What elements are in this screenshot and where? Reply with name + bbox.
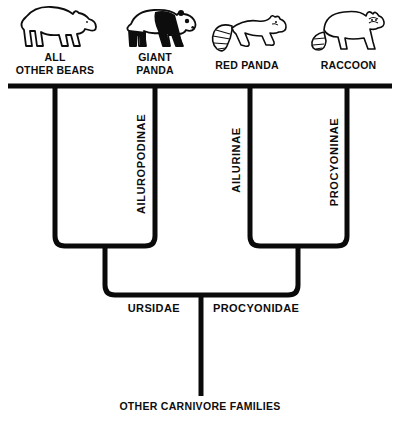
phylogeny-diagram: ALL OTHER BEARS GIANT PANDA RED PANDA RA… (0, 0, 395, 431)
subfamily-label-ailurinae: AILURINAE (229, 125, 243, 195)
subfamily-label-procyoninae: PROCYONINAE (327, 117, 341, 207)
subfamily-label-ailuropodinae: AILUROPODINAE (134, 114, 148, 214)
family-label-procyonidae: PROCYONIDAE (213, 302, 343, 315)
phylogenetic-tree-lines (0, 0, 395, 431)
family-label-ursidae: URSIDAE (80, 302, 180, 315)
tree-family-clade (105, 244, 298, 295)
root-label: OTHER CARNIVORE FAMILIES (57, 400, 343, 412)
